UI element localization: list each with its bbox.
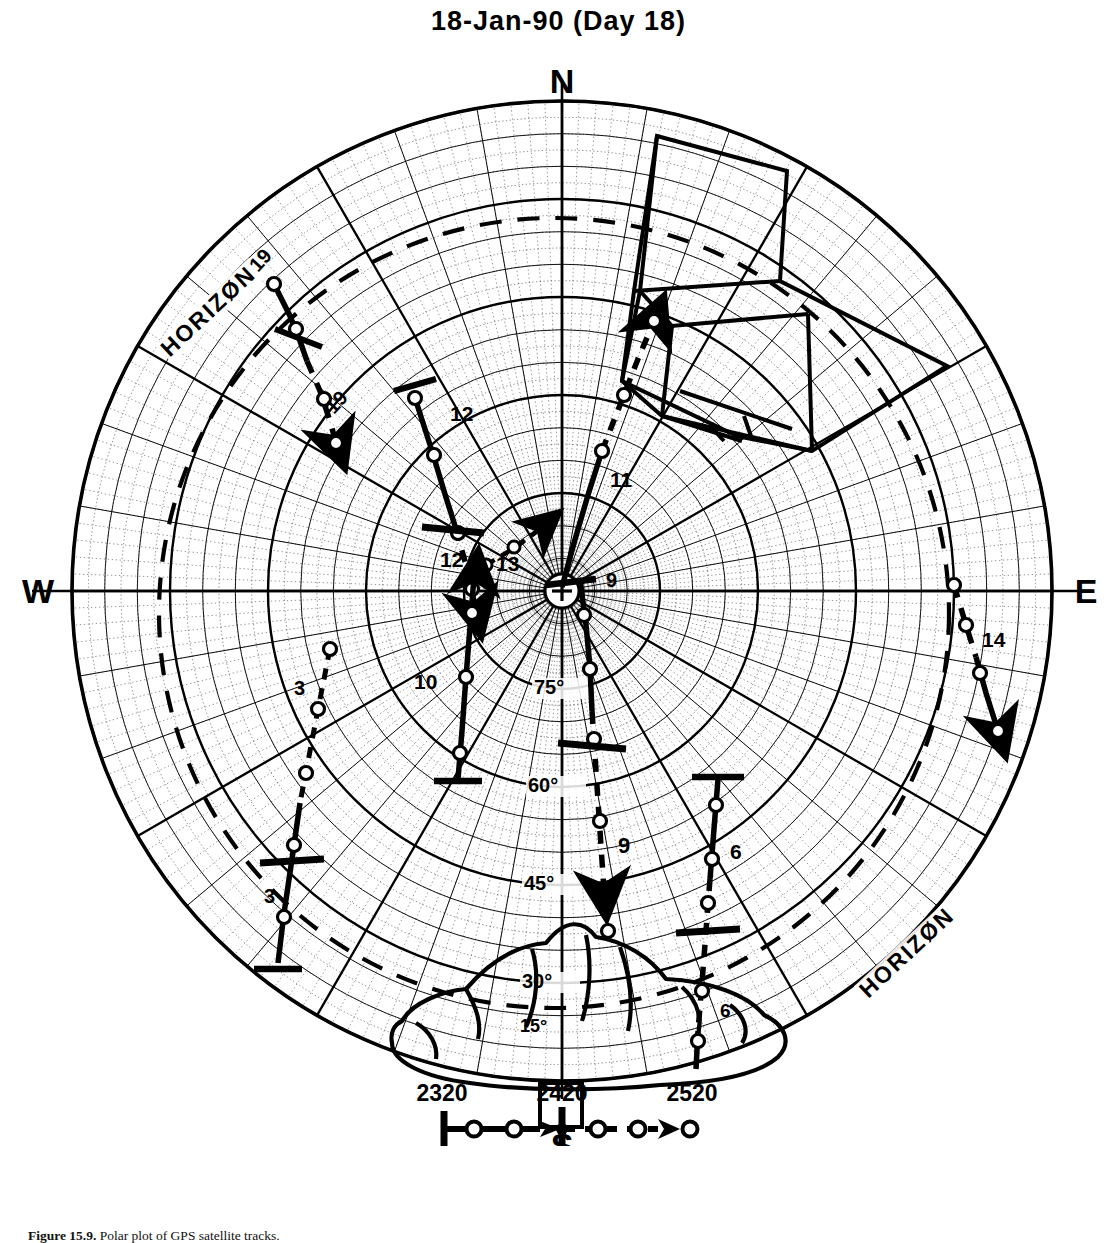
elevation-ring-labels: 75° 60° 45° 30° 15°: [520, 676, 588, 1036]
legend-tick-right: 2520: [666, 1080, 717, 1106]
svg-text:60°: 60°: [528, 774, 558, 796]
svg-text:6: 6: [720, 1000, 731, 1021]
track-3: 3 3: [254, 643, 337, 970]
track-3-cross: [260, 859, 324, 863]
svg-text:12: 12: [440, 548, 463, 571]
track-9-cross: [558, 743, 626, 749]
track-12-cross: [422, 527, 484, 533]
svg-text:10: 10: [414, 670, 437, 693]
cardinal-label-north: N: [550, 62, 575, 100]
cardinal-label-east: E: [1075, 572, 1098, 610]
page-title: 18-Jan-90 (Day 18): [0, 6, 1117, 37]
figure-number: Figure 15.9.: [28, 1228, 96, 1243]
polar-plot-svg: 75° 60° 45° 30° 15°: [0, 46, 1117, 1146]
svg-text:15°: 15°: [520, 1016, 547, 1036]
polar-sky-plot: 75° 60° 45° 30° 15°: [0, 46, 1117, 1146]
svg-text:3: 3: [264, 885, 275, 907]
svg-text:13: 13: [496, 552, 519, 575]
legend-tick-mid: 2420: [536, 1080, 587, 1106]
svg-text:75°: 75°: [534, 676, 564, 698]
svg-text:12: 12: [450, 402, 473, 425]
figure-caption-text: Polar plot of GPS satellite tracks.: [100, 1228, 280, 1243]
horizon-label-se: HORIZØN: [852, 898, 963, 1004]
cardinal-label-west: W: [22, 572, 55, 610]
building-outline: [622, 136, 947, 451]
svg-text:9: 9: [606, 569, 617, 591]
track-6-cross: [676, 929, 740, 933]
svg-text:14: 14: [982, 628, 1006, 651]
figure-caption: Figure 15.9. Polar plot of GPS satellite…: [28, 1228, 1088, 1243]
horizon-label-nw: HORIZØN: [154, 256, 265, 362]
svg-text:9: 9: [618, 833, 630, 858]
svg-text:HORIZØN: HORIZØN: [854, 902, 960, 1003]
svg-text:HORIZØN: HORIZØN: [155, 261, 261, 362]
svg-text:6: 6: [730, 840, 742, 863]
svg-text:11: 11: [610, 468, 633, 491]
legend-tick-left: 2320: [416, 1080, 467, 1106]
svg-text:3: 3: [294, 677, 305, 699]
svg-text:45°: 45°: [524, 872, 554, 894]
